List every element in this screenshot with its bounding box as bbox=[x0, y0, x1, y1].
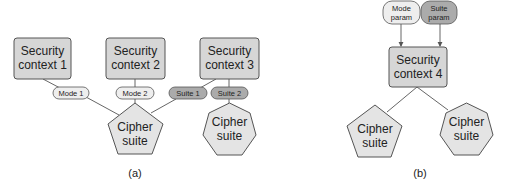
security-context-1: Security context 1 bbox=[14, 38, 71, 79]
cipher-a1-line2: suite bbox=[122, 134, 148, 148]
diagram-canvas: Security context 1 Security context 2 Se… bbox=[0, 0, 506, 187]
security-context-2: Security context 2 bbox=[106, 38, 165, 79]
suite-2-label: Suite 2 bbox=[218, 89, 241, 98]
context-4-line2: context 4 bbox=[394, 67, 443, 81]
cipher-a2-line2: suite bbox=[217, 129, 243, 143]
panel-a: Security context 1 Security context 2 Se… bbox=[14, 38, 259, 179]
context-3-line2: context 3 bbox=[205, 58, 254, 72]
mode-param-line1: Mode bbox=[392, 4, 411, 13]
cipher-b2-line1: Cipher bbox=[449, 115, 484, 129]
context-1-line2: context 1 bbox=[18, 58, 67, 72]
mode-2-label: Mode 2 bbox=[122, 89, 147, 98]
mode-param-line2: param bbox=[391, 13, 412, 22]
mode-2-pill: Mode 2 bbox=[116, 87, 154, 99]
context-2-line1: Security bbox=[114, 44, 157, 58]
suite-2-pill: Suite 2 bbox=[211, 87, 248, 99]
cipher-b1-line1: Cipher bbox=[357, 122, 392, 136]
cipher-suite-pentagon-b: Cipher suite bbox=[347, 105, 402, 157]
context-2-line2: context 2 bbox=[111, 58, 160, 72]
cipher-suite-heptagon-b: Cipher suite bbox=[440, 103, 493, 155]
cipher-a1-line1: Cipher bbox=[117, 120, 152, 134]
context-4-line1: Security bbox=[396, 53, 439, 67]
caption-a: (a) bbox=[128, 167, 141, 179]
suite-param-pill: Suite param bbox=[421, 1, 457, 24]
suite-param-line1: Suite bbox=[430, 4, 447, 13]
suite-1-label: Suite 1 bbox=[176, 89, 199, 98]
mode-1-pill: Mode 1 bbox=[53, 87, 89, 99]
caption-b: (b) bbox=[413, 167, 426, 179]
panel-b: Mode param Suite param Security context … bbox=[347, 1, 493, 179]
cipher-a2-line1: Cipher bbox=[212, 115, 247, 129]
security-context-4: Security context 4 bbox=[389, 47, 447, 87]
suite-1-pill: Suite 1 bbox=[169, 87, 207, 99]
mode-1-label: Mode 1 bbox=[58, 89, 83, 98]
cipher-suite-heptagon-a: Cipher suite bbox=[203, 103, 256, 155]
mode-param-pill: Mode param bbox=[383, 1, 420, 24]
context-1-line1: Security bbox=[21, 44, 64, 58]
cipher-b1-line2: suite bbox=[362, 136, 388, 150]
suite-param-line2: param bbox=[428, 13, 449, 22]
context-3-line1: Security bbox=[208, 44, 251, 58]
cipher-b2-line2: suite bbox=[454, 129, 480, 143]
security-context-3: Security context 3 bbox=[200, 38, 259, 79]
